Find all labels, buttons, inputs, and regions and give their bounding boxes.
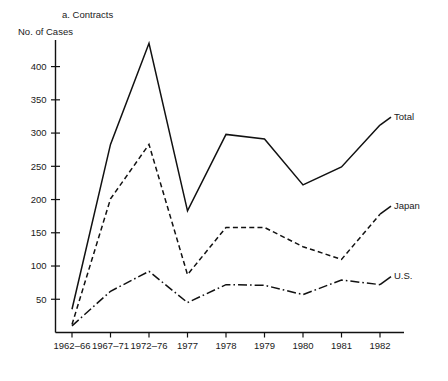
y-tick-label: 350 (31, 94, 47, 105)
series-line-us (72, 271, 380, 326)
chart-canvas: a. Contracts No. of Cases 50100150200250… (0, 0, 448, 381)
x-tick-label: 1967–71 (92, 340, 129, 351)
series-line-japan (72, 144, 380, 324)
series-group (72, 43, 391, 326)
y-tick-label: 400 (31, 61, 47, 72)
y-tick-label: 150 (31, 227, 47, 238)
x-axis: 1962–661967–711972–761977197819791980198… (54, 333, 404, 351)
x-tick-label: 1979 (254, 340, 275, 351)
x-tick-label: 1981 (331, 340, 352, 351)
y-axis: 50100150200250300350400 (31, 40, 60, 333)
x-tick-label: 1982 (369, 340, 390, 351)
y-axis-title: No. of Cases (18, 26, 73, 37)
chart-title: a. Contracts (62, 9, 113, 20)
series-line-total (72, 43, 380, 309)
x-tick-label: 1978 (215, 340, 236, 351)
x-axis-ticks: 1962–661967–711972–761977197819791980198… (54, 333, 391, 351)
y-tick-label: 300 (31, 127, 47, 138)
x-tick-label: 1980 (292, 340, 313, 351)
series-label-us: U.S. (394, 270, 412, 281)
y-tick-label: 100 (31, 260, 47, 271)
series-label-group: TotalJapanU.S. (394, 111, 420, 282)
x-tick-label: 1962–66 (54, 340, 91, 351)
x-tick-label: 1972–76 (131, 340, 168, 351)
y-tick-label: 250 (31, 161, 47, 172)
y-tick-label: 200 (31, 194, 47, 205)
y-tick-label: 50 (36, 294, 47, 305)
series-label-total: Total (394, 111, 414, 122)
series-leader-line (380, 277, 391, 285)
x-tick-label: 1977 (177, 340, 198, 351)
series-label-japan: Japan (394, 200, 420, 211)
contracts-line-chart: a. Contracts No. of Cases 50100150200250… (0, 0, 448, 381)
series-leader-line (380, 117, 391, 125)
series-leader-line (380, 206, 391, 214)
